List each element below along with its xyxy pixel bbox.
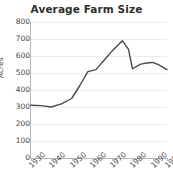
line-series-average-farm-size <box>31 41 167 107</box>
series-layer <box>0 0 173 191</box>
chart-container: Average Farm Size 8007006005004003002001… <box>0 0 173 191</box>
